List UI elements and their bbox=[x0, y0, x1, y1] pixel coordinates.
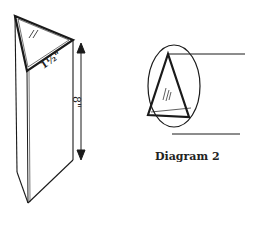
height-label: 8" bbox=[70, 96, 83, 108]
diagram-caption: Diagram 2 bbox=[155, 150, 220, 163]
triangular-prism bbox=[15, 16, 73, 203]
glass-hatch-icon bbox=[163, 88, 171, 101]
cylinder-cross-section bbox=[148, 45, 245, 134]
diagram-canvas bbox=[0, 0, 253, 225]
